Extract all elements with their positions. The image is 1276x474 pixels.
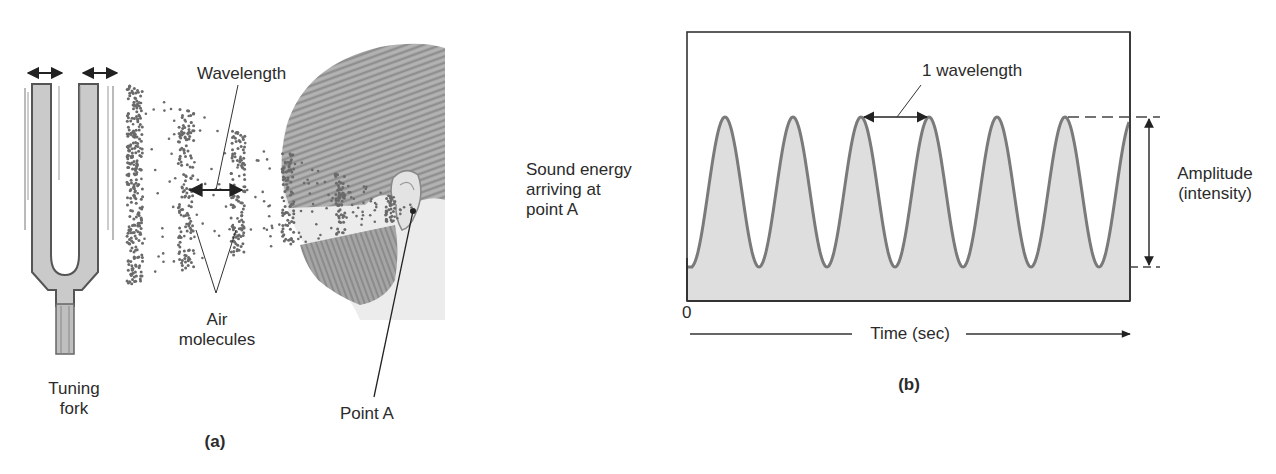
origin-label: 0 (682, 303, 691, 323)
x-axis-label: Time (sec) (855, 324, 965, 344)
amplitude-label-line2: (intensity) (1160, 184, 1270, 204)
amplitude-label: Amplitude (intensity) (1160, 164, 1270, 204)
y-axis-label-line1: Sound energy (526, 160, 632, 180)
y-axis-label-line3: point A (526, 200, 632, 220)
sound-wave-chart (0, 0, 1276, 474)
y-axis-label: Sound energy arriving at point A (526, 160, 632, 220)
y-axis-label-line2: arriving at (526, 180, 632, 200)
one-wavelength-label: 1 wavelength (922, 61, 1022, 81)
panel-b-caption: (b) (889, 375, 929, 395)
amplitude-label-line1: Amplitude (1160, 164, 1270, 184)
